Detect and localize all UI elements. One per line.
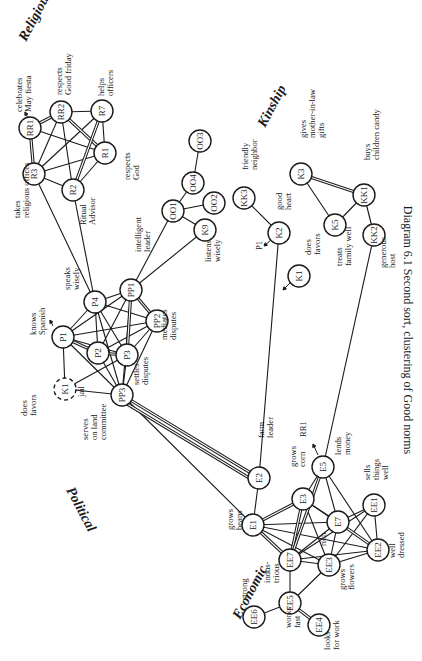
node-pp1: PP1 — [120, 279, 142, 301]
node-ee1: EE1 — [363, 494, 385, 516]
node-label: givesmother-in-lawgifts — [298, 88, 326, 138]
node-id: P4 — [90, 297, 100, 307]
node-label: listenswisely — [203, 239, 222, 262]
node-id: OO1 — [168, 202, 178, 220]
node-id: R2 — [68, 185, 78, 196]
node-label: knowsSpanish — [28, 307, 47, 335]
node-kk3: KK3 — [233, 187, 255, 209]
node-id: K3 — [296, 168, 306, 179]
node-p4: P4 — [84, 291, 106, 313]
node-label: celebratesMay fiesta — [14, 75, 33, 112]
node-label: serveson landcommittee — [80, 404, 108, 440]
node-p3: P3 — [116, 344, 138, 366]
node-id: R7 — [97, 105, 107, 116]
node-kk1: KK1 — [353, 184, 375, 206]
node-id: PP1 — [126, 283, 136, 298]
node-id: P1 — [58, 332, 68, 342]
node-label: buyschildren candy — [362, 108, 381, 160]
node-e3: E3 — [292, 488, 314, 510]
node-id: E7 — [333, 517, 343, 527]
node-label: goodheart — [274, 192, 293, 210]
node-label: respectsGod — [122, 152, 141, 180]
node-id: EE6 — [249, 609, 259, 625]
node-ee7: EE7 — [279, 549, 301, 571]
node-id: PP3 — [117, 387, 127, 402]
node-e1: E1 — [242, 514, 264, 536]
node-label: respectsGood friday — [54, 53, 73, 95]
node-id: R1 — [100, 148, 110, 159]
arrowhead-icon — [313, 444, 316, 447]
node-rr2: RR2 — [50, 101, 72, 123]
cluster-title-kinship: Kinship — [254, 83, 289, 131]
node-label: generoushost — [378, 236, 397, 268]
node-pp3: PP3 — [111, 384, 133, 406]
node-label: farmleader — [256, 417, 275, 438]
node-e2: E2 — [248, 467, 270, 489]
node-r2: R2 — [62, 179, 84, 201]
node-id: OO2 — [209, 194, 219, 212]
node-label: takesreligious offices — [12, 162, 31, 218]
node-label: doesfavors — [303, 233, 322, 255]
node-e7: E7 — [327, 511, 349, 533]
node-id: K1 — [294, 271, 304, 282]
node-id: RR1 — [25, 120, 35, 137]
diagram-caption: Diagram 6.1 Second sort, clustering of G… — [401, 206, 415, 455]
node-label: welldressed — [387, 532, 406, 558]
node-label: speakswisely — [62, 266, 81, 290]
node-id: K2 — [274, 228, 284, 239]
node-label: jail — [76, 385, 86, 398]
node-k9: K9 — [194, 219, 216, 241]
node-oo4: OO4 — [182, 172, 204, 194]
node-r7: R7 — [91, 100, 113, 122]
node-rr1: RR1 — [19, 117, 41, 139]
node-id: KK3 — [239, 189, 249, 207]
node-id: E2 — [254, 473, 264, 483]
node-oo1: OO1 — [162, 200, 184, 222]
node-id: EE2 — [373, 542, 383, 558]
node-label: growsbeans — [225, 508, 244, 530]
nodes-layer: RR1RR2R7R1R3R2OO3OO4OO2OO1K9KK3K2K1K3KK1… — [19, 100, 389, 636]
node-p1: P1 — [52, 326, 74, 348]
edge-E1-E7 — [253, 522, 338, 525]
node-id: K5 — [330, 219, 340, 230]
node-id: EE3 — [324, 557, 334, 573]
node-id: RR2 — [56, 104, 66, 121]
double-edge-inner-PP3-E2b — [119, 399, 256, 482]
node-label: intelligentleader — [133, 217, 152, 252]
node-p2: P2 — [87, 342, 109, 364]
node-id: P3 — [122, 350, 132, 360]
node-k3: K3 — [290, 163, 312, 185]
node-label: growscorn — [288, 445, 307, 467]
node-label: RitualAdvisor — [78, 197, 97, 225]
node-e5: E5 — [312, 456, 334, 478]
node-label: friendlyneighbor — [240, 139, 259, 170]
node-id: E5 — [318, 462, 328, 472]
node-id: P2 — [93, 348, 103, 358]
node-label: doesfavors — [19, 394, 38, 416]
cluster-title-religious: Religious — [15, 0, 55, 44]
node-label: mediatesdisputes — [159, 309, 178, 340]
node-id: OO4 — [188, 174, 198, 192]
node-r1: R1 — [94, 142, 116, 164]
node-k1: K1 — [288, 265, 310, 287]
node-label: lendsmoney — [333, 431, 352, 455]
node-id: K1 — [60, 384, 70, 395]
node-ee2: EE2 — [367, 539, 389, 561]
node-id: EE4 — [314, 617, 324, 633]
node-k1p: K1 — [54, 378, 76, 400]
node-id: EE1 — [369, 497, 379, 513]
good-norms-clustering-diagram: RR1RR2R7R1R3R2OO3OO4OO2OO1K9KK3K2K1K3KK1… — [0, 0, 422, 661]
edge-K2-E2 — [259, 233, 279, 478]
node-label: helpsofficers — [96, 69, 115, 96]
edge-RR2-R2 — [61, 112, 73, 190]
node-id: K9 — [200, 224, 210, 235]
node-label: RR1 — [298, 421, 308, 437]
node-label: rich — [318, 532, 328, 546]
node-id: KK1 — [359, 186, 369, 204]
arrowhead-icon — [50, 320, 53, 323]
cluster-title-political: Political — [63, 484, 99, 534]
node-id: E1 — [248, 520, 258, 530]
double-edge-inner-PP3-E2 — [122, 395, 259, 478]
node-label: P1 — [254, 241, 264, 250]
node-id: E3 — [298, 494, 308, 504]
